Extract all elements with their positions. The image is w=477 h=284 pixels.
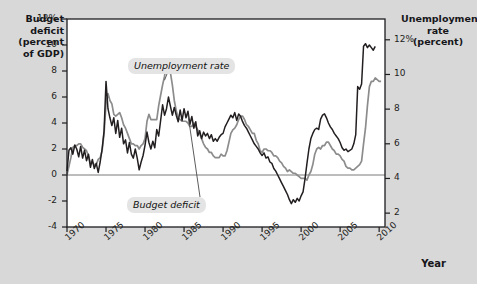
right-tick-label: 10 [394,68,424,78]
left-tick-label: 12% [27,13,57,23]
figure-container: Budget deficit (percent of GDP) Unemploy… [0,0,477,284]
right-axis-ticks [385,40,390,213]
left-tick-label: 0 [27,169,57,179]
right-tick-label: 4 [394,172,424,182]
left-axis-ticks [62,19,67,227]
right-tick-label: 6 [394,138,424,148]
right-tick-label: 2 [394,207,424,217]
x-axis-label: Year [421,258,446,269]
left-tick-label: 8 [27,65,57,75]
left-tick-label: 2 [27,143,57,153]
left-tick-label: -2 [27,195,57,205]
right-tick-label: 8 [394,103,424,113]
left-tick-label: 10 [27,39,57,49]
right-tick-label: 12% [394,34,424,44]
budget-deficit-callout: Budget deficit [127,197,206,213]
left-tick-label: -4 [27,221,57,231]
left-tick-label: 4 [27,117,57,127]
left-tick-label: 6 [27,91,57,101]
unemployment-rate-callout: Unemployment rate [128,58,235,74]
